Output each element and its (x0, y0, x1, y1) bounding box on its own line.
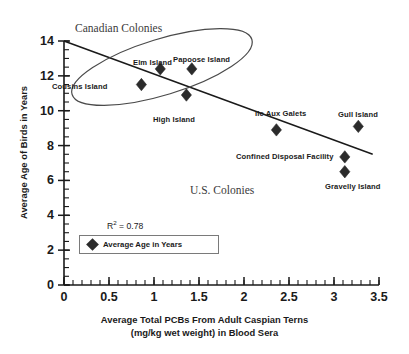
y-tick-label: 4 (32, 208, 54, 222)
legend: Average Age in Years (79, 235, 219, 254)
x-axis-title-line2: (mg/kg wet weight) in Blood Sera (0, 327, 409, 340)
data-point-marker (187, 63, 197, 75)
point-label-gull-island: Gull Island (338, 110, 378, 119)
point-label-gravelly-island: Gravelly Island (325, 182, 381, 191)
data-point-marker (340, 151, 350, 163)
x-axis-title-line1: Average Total PCBs From Adult Caspian Te… (0, 314, 409, 327)
x-tick-label: 2.5 (280, 290, 297, 304)
y-axis-title: Average Age of Birds in Years (18, 53, 29, 253)
group-label-canadian-colonies: Canadian Colonies (75, 22, 162, 34)
y-tick-label: 8 (32, 139, 54, 153)
y-tick-label: 6 (32, 173, 54, 187)
x-tick-label: 3 (331, 290, 338, 304)
y-tick-label: 2 (32, 243, 54, 257)
data-point-marker (136, 78, 146, 90)
point-label-high-island: High Island (153, 115, 195, 124)
x-tick-label: 3.5 (370, 290, 387, 304)
x-tick-label: 2 (241, 290, 248, 304)
data-point-marker (340, 166, 350, 178)
point-label-cousins-island: Cousins Island (52, 82, 107, 91)
point-label-confined-disposal-facility: Confined Disposal Facility (236, 152, 334, 161)
x-axis-title: Average Total PCBs From Adult Caspian Te… (0, 314, 409, 339)
x-tick-label: 1.5 (190, 290, 207, 304)
y-tick-label: 14 (32, 34, 54, 48)
x-tick-label: 0.5 (100, 290, 117, 304)
point-label-papoose-island: Papoose Island (173, 55, 230, 64)
x-tick-label: 1 (151, 290, 158, 304)
y-tick-label: 10 (32, 104, 54, 118)
legend-entry-label: Average Age in Years (103, 240, 182, 249)
data-point-marker (181, 89, 191, 101)
scatter-plot-figure: 00.511.522.533.502468101214 Cousins Isla… (0, 0, 409, 354)
x-tick-label: 0 (61, 290, 68, 304)
r-squared-value: = 0.78 (117, 221, 144, 231)
y-tick-label: 0 (32, 278, 54, 292)
legend-diamond-icon (86, 238, 99, 251)
data-point-marker (271, 124, 281, 136)
group-label-us-colonies: U.S. Colonies (190, 184, 254, 196)
r-squared-annotation: R2 = 0.78 (107, 219, 143, 231)
point-label-elm-island: Elm Island (133, 58, 172, 67)
point-label-ile-aux-galets: Ile Aux Galets (255, 109, 306, 118)
y-tick-label: 12 (32, 69, 54, 83)
data-point-marker (353, 120, 363, 132)
